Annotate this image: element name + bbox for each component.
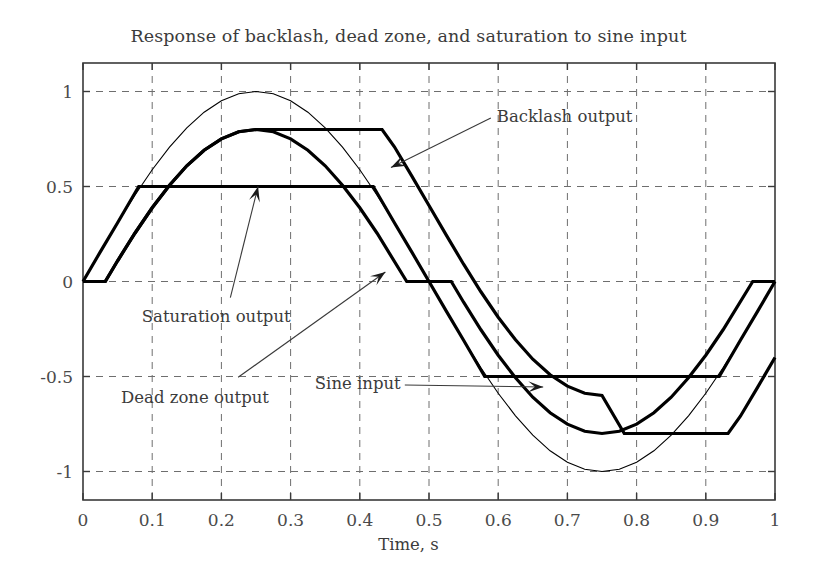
x-tick-label: 1 [770, 510, 781, 530]
x-tick-label: 0.6 [485, 510, 512, 530]
arrowhead-deadzone [370, 272, 385, 285]
x-tick-label: 0.3 [277, 510, 304, 530]
y-tick-label: -0.5 [25, 367, 73, 387]
leader-line-backlash [391, 118, 491, 167]
x-tick-label: 0.9 [692, 510, 719, 530]
x-tick-label: 0.1 [139, 510, 166, 530]
x-tick-label: 0.4 [346, 510, 373, 530]
x-tick-label: 0.2 [208, 510, 235, 530]
y-tick-label: 0.5 [25, 177, 73, 197]
x-tick-label: 0 [78, 510, 89, 530]
chart-figure: Response of backlash, dead zone, and sat… [0, 0, 817, 577]
annotation-deadzone: Dead zone output [121, 388, 269, 407]
x-tick-label: 0.8 [623, 510, 650, 530]
annotation-saturation: Saturation output [142, 307, 291, 326]
x-tick-label: 0.7 [554, 510, 581, 530]
y-tick-label: -1 [25, 462, 73, 482]
y-tick-label: 1 [25, 82, 73, 102]
y-tick-label: 0 [25, 272, 73, 292]
annotation-backlash: Backlash output [497, 107, 633, 126]
x-axis-label: Time, s [0, 535, 817, 554]
annotation-sine: Sine input [315, 374, 401, 393]
x-tick-label: 0.5 [415, 510, 442, 530]
plot-canvas [0, 0, 817, 577]
leader-line-saturation [230, 187, 258, 298]
